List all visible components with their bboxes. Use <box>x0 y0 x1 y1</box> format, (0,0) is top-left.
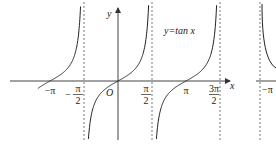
tan-graph: −πππ2−π23π2 y x O y=tan x −π <box>0 0 276 144</box>
second-panel-curve <box>262 4 276 68</box>
zero-label-0: −π <box>45 85 56 96</box>
second-panel: −π <box>256 2 276 142</box>
origin-label: O <box>106 87 113 98</box>
asymptote-label-den-1: 2 <box>144 95 149 106</box>
chart-title: y=tan x <box>163 25 195 36</box>
asymptote-label-num-0: π <box>75 83 80 94</box>
tan-branch-1 <box>88 5 148 139</box>
second-panel-zero-label: −π <box>262 84 273 95</box>
asymptote-label-den-2: 2 <box>212 95 217 106</box>
zero-label-1: π <box>183 85 188 96</box>
asymptote-label-num-2: 3π <box>209 83 219 94</box>
asymptote-label-num-1: π <box>143 83 148 94</box>
asymptote-label-den-0: 2 <box>75 95 80 106</box>
asymptote-label-sign-0: − <box>65 89 71 100</box>
x-axis-label: x <box>229 80 235 91</box>
y-axis-label: y <box>106 8 112 19</box>
tan-branch-0 <box>38 7 81 89</box>
